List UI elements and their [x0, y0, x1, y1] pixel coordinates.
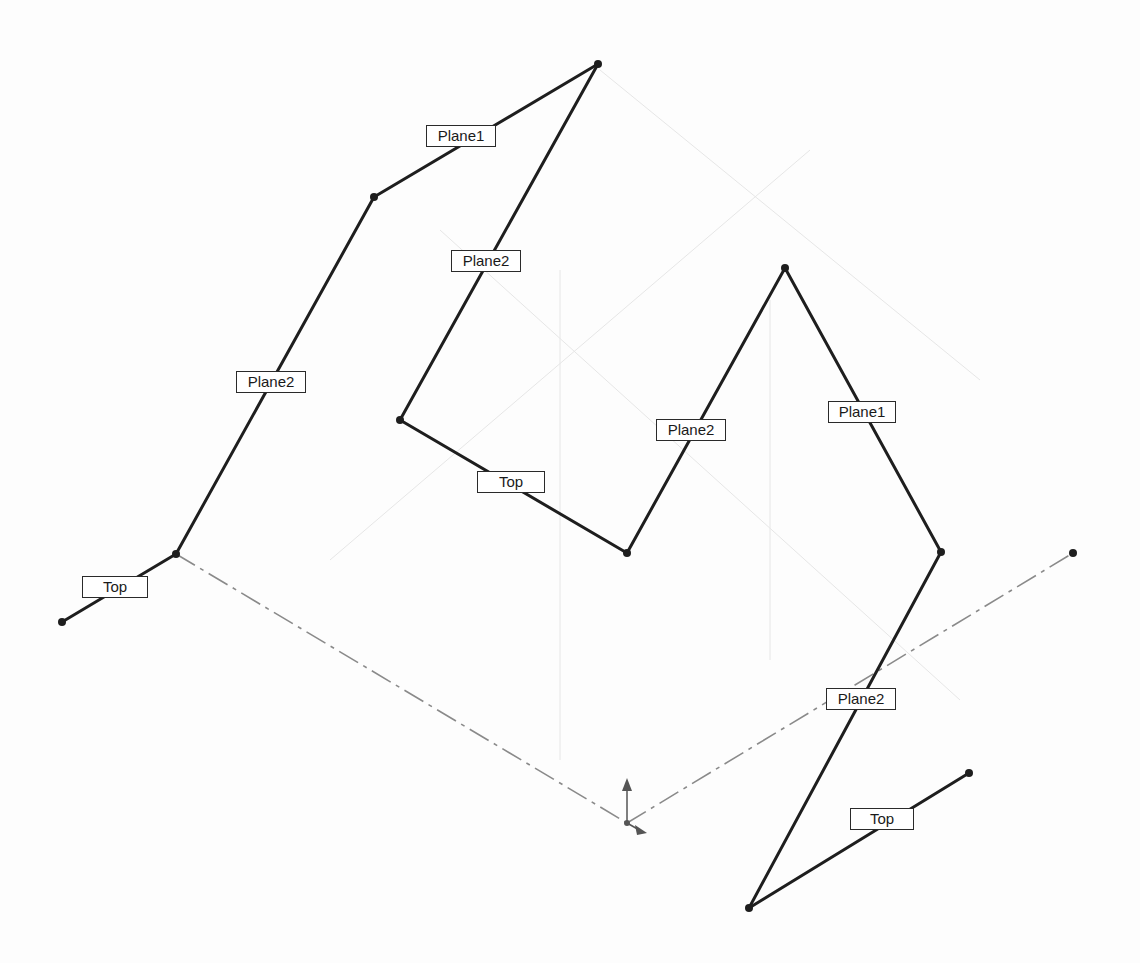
relation-label-plane2[interactable]: Plane2 [451, 250, 521, 272]
relation-label-plane2[interactable]: Plane2 [826, 688, 896, 710]
sketch-line-8[interactable] [749, 552, 941, 908]
sketch-line-6[interactable] [627, 268, 785, 553]
relation-label-plane1[interactable]: Plane1 [828, 401, 896, 423]
sketch-vertices[interactable] [58, 60, 1077, 912]
sketch-canvas[interactable] [0, 0, 1140, 963]
sketch-point-v3[interactable] [370, 193, 378, 201]
sketch-point-v8[interactable] [937, 548, 945, 556]
relation-label-top[interactable]: Top [82, 576, 148, 598]
relation-label-plane2[interactable]: Plane2 [236, 371, 306, 393]
sketch-point-v10[interactable] [965, 769, 973, 777]
sketch-point-v7[interactable] [781, 264, 789, 272]
sketch-line-4[interactable] [400, 64, 598, 420]
sketch-point-v6[interactable] [623, 549, 631, 557]
centerlines [176, 553, 1073, 823]
origin-triad-icon [622, 778, 647, 835]
relation-label-top[interactable]: Top [850, 808, 914, 830]
centerline-1[interactable] [176, 554, 627, 823]
sketch-point-v1[interactable] [58, 618, 66, 626]
sketch-point-v2[interactable] [172, 550, 180, 558]
relation-label-plane2[interactable]: Plane2 [656, 419, 726, 441]
sketch-line-9[interactable] [749, 773, 969, 908]
relation-label-top[interactable]: Top [477, 471, 545, 493]
sketch-point-v4[interactable] [594, 60, 602, 68]
sketch-point-v9[interactable] [745, 904, 753, 912]
sketch-point-v5[interactable] [396, 416, 404, 424]
relation-label-plane1[interactable]: Plane1 [426, 125, 496, 147]
sketch-point-v11[interactable] [1069, 549, 1077, 557]
